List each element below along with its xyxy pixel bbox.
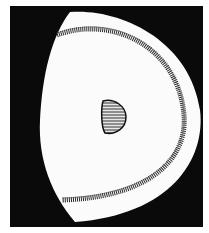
cell-diagram <box>0 0 209 233</box>
